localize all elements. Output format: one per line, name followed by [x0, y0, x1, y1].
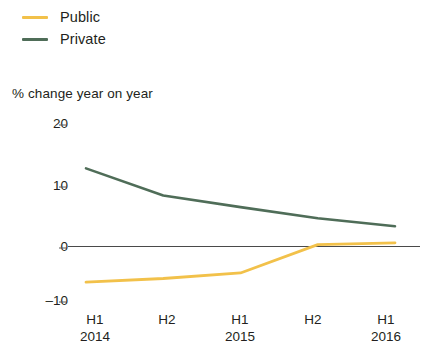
x-tick-year-2: 2015 — [225, 328, 255, 345]
plot-svg — [0, 0, 424, 361]
plot-area — [0, 0, 424, 361]
x-tick-half-1: H2 — [158, 312, 175, 328]
x-tick-3: H2 — [304, 312, 321, 328]
x-tick-half-3: H2 — [304, 312, 321, 328]
series-line-private — [86, 168, 395, 226]
x-tick-0: H1 2014 — [80, 312, 110, 345]
x-tick-4: H1 2016 — [371, 312, 401, 345]
series-line-public — [86, 243, 395, 282]
x-tick-year-4: 2016 — [371, 328, 401, 345]
chart-container: Public Private % change year on year 20 … — [0, 0, 424, 361]
x-tick-2: H1 2015 — [225, 312, 255, 345]
x-tick-1: H2 — [158, 312, 175, 328]
x-tick-half-2: H1 — [225, 312, 255, 328]
x-tick-half-4: H1 — [371, 312, 401, 328]
x-tick-half-0: H1 — [80, 312, 110, 328]
x-tick-year-0: 2014 — [80, 328, 110, 345]
